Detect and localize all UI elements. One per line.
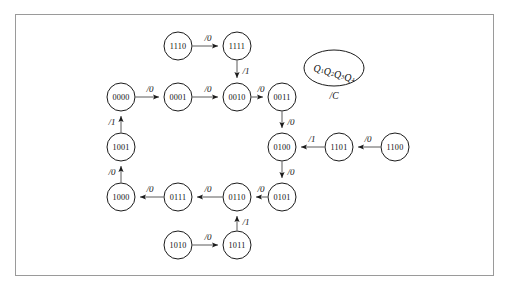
state-node-label: 1000	[112, 193, 129, 202]
legend-output-label: /C	[329, 91, 340, 101]
transition-edge-1000-to-1001[interactable]: /0	[107, 166, 121, 183]
transition-output-label: /1	[241, 66, 249, 76]
state-node-1001[interactable]: 1001	[107, 133, 135, 161]
state-node-label: 1001	[112, 143, 129, 152]
state-node-label: 1010	[169, 241, 186, 250]
transition-edge-1011-to-0110[interactable]: /1	[237, 216, 250, 231]
transition-edge-1001-to-0000[interactable]: /1	[107, 116, 121, 133]
transition-edge-0101-to-0110[interactable]: /0	[256, 184, 268, 197]
state-node-label: 0010	[228, 93, 245, 102]
transition-output-label: /0	[286, 167, 295, 177]
state-node-0000[interactable]: 0000	[107, 83, 135, 111]
state-node-label: 0011	[274, 93, 291, 102]
state-node-1100[interactable]: 1100	[381, 133, 409, 161]
state-diagram: /0/1/0/0/0/0/1/0/0/0/0/0/0/1/0/1 1110111…	[0, 0, 509, 291]
state-node-0110[interactable]: 0110	[223, 183, 251, 211]
transition-edge-0000-to-0001[interactable]: /0	[136, 84, 160, 97]
state-node-1010[interactable]: 1010	[164, 231, 192, 259]
transition-output-label: /0	[145, 84, 154, 94]
transition-output-label: /0	[203, 232, 212, 242]
transition-output-label: /0	[363, 134, 372, 144]
state-node-label: 0001	[169, 93, 186, 102]
transition-edge-0010-to-0011[interactable]: /0	[252, 84, 265, 97]
state-node-label: 1110	[170, 42, 187, 51]
transition-output-label: /0	[203, 33, 212, 43]
transition-edge-0001-to-0010[interactable]: /0	[193, 84, 219, 97]
transition-output-label: /1	[107, 117, 115, 127]
state-node-0001[interactable]: 0001	[164, 83, 192, 111]
state-node-label: 0101	[273, 193, 290, 202]
state-node-0101[interactable]: 0101	[268, 183, 296, 211]
state-node-label: 0110	[229, 193, 246, 202]
transition-output-label: /0	[286, 117, 295, 127]
transition-output-label: /0	[203, 184, 212, 194]
transition-output-label: /0	[256, 84, 265, 94]
transition-edge-1111-to-0010[interactable]: /1	[237, 61, 250, 79]
state-node-1011[interactable]: 1011	[223, 231, 251, 259]
state-node-0111[interactable]: 0111	[164, 183, 192, 211]
transition-edge-1101-to-0100[interactable]: /1	[301, 134, 325, 147]
diagram-page: /0/1/0/0/0/0/1/0/0/0/0/0/0/1/0/1 1110111…	[0, 0, 509, 291]
state-node-label: 1101	[331, 143, 348, 152]
transition-output-label: /0	[203, 84, 212, 94]
state-node-0010[interactable]: 0010	[223, 83, 251, 111]
state-node-0011[interactable]: 0011	[268, 83, 296, 111]
transition-output-label: /1	[307, 134, 315, 144]
state-node-label: 1100	[387, 143, 404, 152]
state-node-1101[interactable]: 1101	[325, 133, 353, 161]
legend-layer: Q1Q2Q3Q4 /C	[304, 50, 364, 101]
transition-edge-0110-to-0111[interactable]: /0	[197, 184, 223, 197]
state-node-label: 0000	[112, 93, 129, 102]
transition-output-label: /0	[107, 167, 116, 177]
state-node-1000[interactable]: 1000	[107, 183, 135, 211]
state-node-label: 0111	[170, 193, 187, 202]
transition-edge-1100-to-1101[interactable]: /0	[358, 134, 381, 147]
state-node-0100[interactable]: 0100	[268, 133, 296, 161]
state-node-label: 1111	[229, 42, 245, 51]
transition-edge-0100-to-0101[interactable]: /0	[282, 162, 295, 179]
transition-output-label: /0	[145, 184, 154, 194]
transition-output-label: /1	[241, 217, 249, 227]
state-node-label: 1011	[229, 241, 246, 250]
transition-edge-0111-to-1000[interactable]: /0	[140, 184, 164, 197]
transition-edge-0011-to-0100[interactable]: /0	[282, 112, 295, 129]
state-node-1110[interactable]: 1110	[164, 32, 192, 60]
transition-edge-1110-to-1111[interactable]: /0	[193, 33, 219, 46]
transition-edge-1010-to-1011[interactable]: /0	[193, 232, 219, 245]
transition-output-label: /0	[256, 184, 265, 194]
state-node-label: 0100	[273, 143, 290, 152]
state-node-1111[interactable]: 1111	[223, 32, 251, 60]
